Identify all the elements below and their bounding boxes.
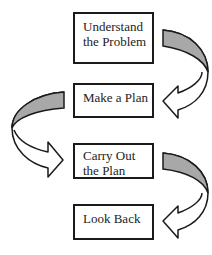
step-label-line1: Make a Plan xyxy=(83,90,152,105)
step-understand-problem: Understand the Problem xyxy=(73,12,154,64)
step-label-line1: Carry Out xyxy=(83,148,152,163)
curved-arrow-2 xyxy=(12,92,64,177)
step-carry-out-plan: Carry Out the Plan xyxy=(73,143,154,179)
curved-arrow-3 xyxy=(163,153,208,238)
step-label-line2: the Problem xyxy=(83,34,152,49)
step-label-line1: Understand xyxy=(83,19,152,34)
curved-arrow-1 xyxy=(163,30,208,118)
step-look-back: Look Back xyxy=(73,204,154,240)
step-label-line2: the Plan xyxy=(83,163,152,178)
step-label-line1: Look Back xyxy=(83,211,152,226)
step-make-plan: Make a Plan xyxy=(73,83,154,118)
